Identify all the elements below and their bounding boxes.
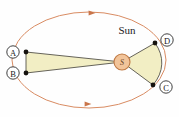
orbit-direction-arrow-bottom <box>85 101 92 106</box>
point-label-text-a: A <box>10 48 17 58</box>
orbital-diagram-canvas: S Sun ABCD <box>0 0 179 117</box>
point-label-c: C <box>160 81 172 93</box>
orbit-point-c <box>151 83 156 88</box>
sun-inner-label: S <box>120 58 124 67</box>
point-label-a: A <box>7 46 19 58</box>
orbit-point-d <box>153 41 158 46</box>
sun-caption-label: Sun <box>118 24 136 36</box>
swept-area-sector-ab <box>26 52 122 73</box>
kepler-diagram-root: S Sun ABCD <box>0 0 179 117</box>
point-label-text-d: D <box>164 36 170 46</box>
orbit-point-a <box>24 50 29 55</box>
point-label-b: B <box>7 67 19 79</box>
orbit-point-b <box>24 71 29 76</box>
point-label-text-c: C <box>163 83 169 93</box>
point-label-d: D <box>161 34 173 46</box>
point-label-text-b: B <box>10 69 16 79</box>
orbit-direction-arrow-top <box>89 10 96 15</box>
